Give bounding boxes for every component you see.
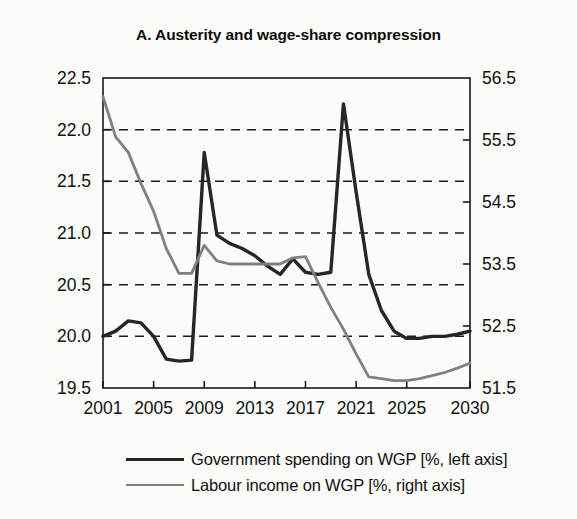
axis-tick-label-left: 21.5 (57, 171, 91, 191)
legend-label-labour-income: Labour income on WGP [%, right axis] (191, 476, 465, 495)
axis-tick-label-right: 52.5 (482, 316, 516, 336)
gridlines-group (103, 130, 470, 337)
legend-line-icon-labour-income (126, 484, 184, 486)
axis-tick-label-right: 51.5 (482, 378, 516, 398)
legend-item-labour-income: Labour income on WGP [%, right axis] (0, 472, 577, 498)
axis-tick-label-left: 21.0 (57, 223, 91, 243)
axis-tick-label-left: 19.5 (57, 378, 91, 398)
axis-tick-label-left: 20.0 (57, 326, 91, 346)
tick-marks-group (103, 130, 470, 388)
axis-tick-label-bottom: 2009 (185, 398, 224, 418)
axis-tick-label-right: 53.5 (482, 254, 516, 274)
axis-tick-label-right: 54.5 (482, 192, 516, 212)
legend-label-government-spending: Government spending on WGP [%, left axis… (191, 450, 507, 469)
legend-line-icon-government-spending (126, 458, 184, 461)
axis-tick-label-bottom: 2021 (337, 398, 376, 418)
axis-tick-label-bottom: 2013 (235, 398, 274, 418)
axis-tick-label-bottom: 2005 (134, 398, 173, 418)
legend-item-government-spending: Government spending on WGP [%, left axis… (0, 446, 577, 472)
axis-tick-label-left: 22.5 (57, 68, 91, 88)
axis-tick-label-bottom: 2017 (286, 398, 325, 418)
axis-tick-label-left: 20.5 (57, 275, 91, 295)
axis-tick-label-left: 22.0 (57, 120, 91, 140)
axis-tick-label-right: 56.5 (482, 68, 516, 88)
tick-labels-group: 19.520.020.521.021.522.022.551.552.553.5… (57, 68, 516, 418)
series-group (103, 97, 470, 381)
axis-tick-label-right: 55.5 (482, 130, 516, 150)
axis-tick-label-bottom: 2001 (84, 398, 123, 418)
axis-tick-label-bottom: 2025 (387, 398, 426, 418)
figure-panel: A. Austerity and wage-share compression … (0, 0, 577, 519)
chart-legend: Government spending on WGP [%, left axis… (0, 446, 577, 498)
line-chart: 19.520.020.521.021.522.022.551.552.553.5… (0, 0, 577, 440)
axis-tick-label-bottom: 2030 (451, 398, 490, 418)
